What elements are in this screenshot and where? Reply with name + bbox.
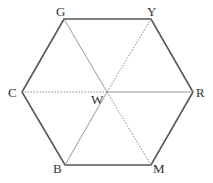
vertex-label-r: R bbox=[196, 85, 205, 100]
spoke-w-m bbox=[107, 92, 151, 165]
hexagon-diagram: G Y R M B C W bbox=[0, 0, 213, 183]
vertex-label-b: B bbox=[53, 161, 62, 176]
vertex-label-g: G bbox=[56, 4, 65, 19]
vertex-label-c: C bbox=[8, 85, 17, 100]
vertex-label-m: M bbox=[153, 161, 165, 176]
spoke-w-g bbox=[64, 19, 107, 92]
vertex-label-y: Y bbox=[147, 4, 157, 19]
center-label-w: W bbox=[91, 92, 104, 107]
spoke-w-y bbox=[107, 19, 151, 92]
